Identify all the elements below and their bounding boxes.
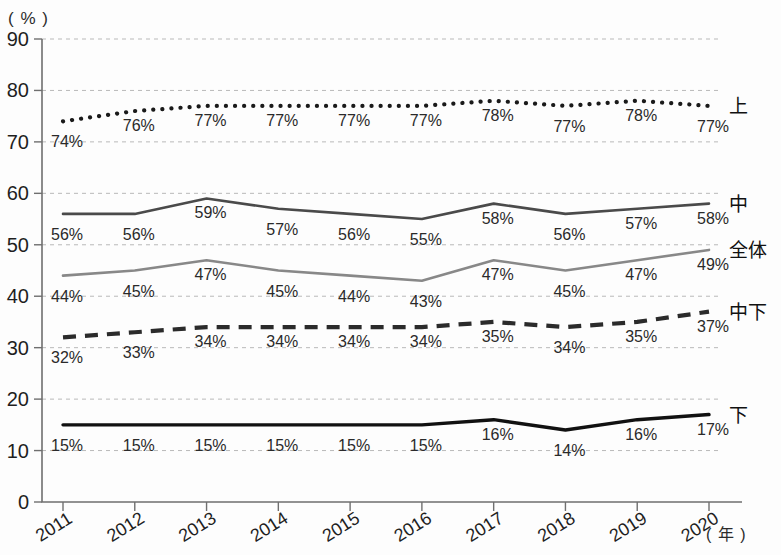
y-tick-label: 50 [7, 234, 29, 256]
data-label: 77% [266, 112, 298, 129]
data-label: 37% [697, 318, 729, 335]
data-label: 33% [123, 344, 155, 361]
data-label: 15% [195, 437, 227, 454]
x-tick-label: 2012 [103, 508, 148, 546]
series-line-上 [63, 101, 709, 122]
data-label: 49% [697, 256, 729, 273]
x-tick-label: 2015 [319, 508, 364, 546]
data-label: 16% [625, 426, 657, 443]
data-label: 57% [625, 215, 657, 232]
data-label: 57% [266, 221, 298, 238]
data-label: 77% [553, 118, 585, 135]
data-label: 78% [482, 107, 514, 124]
x-tick-label: 2014 [247, 508, 292, 546]
x-tick-label: 2018 [534, 508, 579, 546]
data-label: 77% [410, 112, 442, 129]
data-label: 16% [482, 426, 514, 443]
data-label: 34% [410, 333, 442, 350]
chart-page: 0102030405060708090 20112012201320142015… [0, 0, 781, 555]
series-line-中下 [63, 312, 709, 338]
x-axis-ticks-group: 2011201220132014201520162017201820192020 [32, 502, 722, 546]
data-label: 45% [123, 283, 155, 300]
data-label: 15% [410, 437, 442, 454]
series-line-中 [63, 198, 709, 219]
data-label: 47% [625, 266, 657, 283]
x-axis-unit-label: ( 年 ) [706, 526, 747, 543]
data-label: 35% [625, 328, 657, 345]
y-tick-label: 30 [7, 337, 29, 359]
line-chart: 0102030405060708090 20112012201320142015… [0, 0, 781, 555]
data-label: 15% [123, 437, 155, 454]
series-label-全体: 全体 [729, 240, 767, 261]
data-label: 44% [338, 288, 370, 305]
x-tick-label: 2016 [390, 508, 435, 546]
data-label: 15% [51, 437, 83, 454]
data-label: 56% [123, 226, 155, 243]
data-label: 34% [338, 333, 370, 350]
series-line-全体 [63, 250, 709, 281]
data-label: 55% [410, 231, 442, 248]
data-label: 77% [338, 112, 370, 129]
data-label: 59% [195, 204, 227, 221]
data-label: 17% [697, 421, 729, 438]
data-label: 76% [123, 117, 155, 134]
x-tick-label: 2013 [175, 508, 220, 546]
data-point-labels-group: 74%76%77%77%77%77%78%77%78%77%56%56%59%5… [51, 107, 729, 459]
y-tick-label: 80 [7, 79, 29, 101]
data-label: 43% [410, 293, 442, 310]
series-label-下: 下 [729, 405, 748, 426]
y-axis-unit-label: ( % ) [8, 9, 49, 28]
series-label-上: 上 [729, 96, 748, 117]
data-label: 44% [51, 288, 83, 305]
y-axis-ticks-group: 0102030405060708090 [7, 28, 42, 513]
data-label: 15% [338, 437, 370, 454]
data-label: 34% [553, 339, 585, 356]
data-label: 56% [51, 226, 83, 243]
data-label: 74% [51, 133, 83, 150]
data-label: 58% [697, 210, 729, 227]
y-tick-label: 10 [7, 440, 29, 462]
data-label: 35% [482, 328, 514, 345]
data-label: 45% [266, 283, 298, 300]
y-tick-label: 90 [7, 28, 29, 50]
y-tick-label: 70 [7, 131, 29, 153]
y-tick-label: 40 [7, 285, 29, 307]
series-label-中下: 中下 [729, 302, 767, 323]
x-tick-label: 2019 [606, 508, 651, 546]
data-label: 77% [195, 112, 227, 129]
data-label: 32% [51, 349, 83, 366]
data-label: 14% [553, 442, 585, 459]
data-label: 77% [697, 118, 729, 135]
data-label: 78% [625, 107, 657, 124]
y-tick-label: 20 [7, 388, 29, 410]
x-tick-label: 2011 [32, 508, 75, 545]
data-label: 47% [195, 266, 227, 283]
data-label: 47% [482, 266, 514, 283]
data-label: 56% [338, 226, 370, 243]
data-label: 34% [266, 333, 298, 350]
data-label: 56% [553, 226, 585, 243]
data-label: 15% [266, 437, 298, 454]
data-label: 34% [195, 333, 227, 350]
series-lines-group [63, 101, 709, 430]
x-tick-label: 2017 [462, 508, 507, 546]
data-label: 45% [553, 283, 585, 300]
series-label-中: 中 [729, 194, 748, 215]
y-tick-label: 0 [18, 491, 29, 513]
data-label: 58% [482, 210, 514, 227]
series-line-下 [63, 415, 709, 430]
series-legend-group: 上中全体中下下 [729, 96, 767, 426]
y-tick-label: 60 [7, 182, 29, 204]
